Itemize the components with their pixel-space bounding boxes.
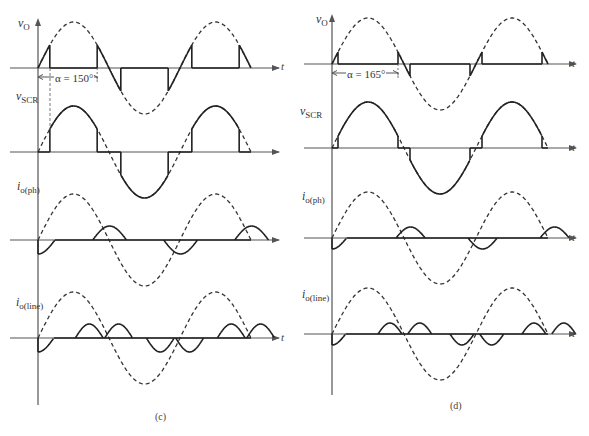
label-vSCR-d: vSCR <box>300 105 322 120</box>
t-label-d-3: t <box>572 231 575 243</box>
t-label-d-2: t <box>572 141 575 153</box>
axis-arrow-icon <box>329 14 335 22</box>
axis-arrow-icon <box>272 149 280 155</box>
t-label-d-4: t <box>572 327 575 339</box>
label-io-line-d: io(line) <box>302 288 329 303</box>
label-vO-c: vO <box>18 17 30 32</box>
t-label-c-4: t <box>281 331 284 343</box>
label-vO-d: vO <box>316 13 328 28</box>
phase-current-waveform <box>332 227 569 249</box>
line-current-waveform <box>332 323 576 345</box>
t-label-c-1: t <box>281 60 284 72</box>
waveform-figure <box>0 0 589 436</box>
phase-current-waveform <box>38 226 269 254</box>
caption-c: (c) <box>155 411 166 422</box>
label-io-ph-c: io(ph) <box>17 180 40 195</box>
line-current-waveform <box>38 324 274 352</box>
axis-arrow-icon <box>272 65 280 71</box>
label-io-ph-d: io(ph) <box>302 190 325 205</box>
axis-arrow-icon <box>272 237 280 243</box>
caption-d: (d) <box>450 400 462 411</box>
firing-angle-label-d: α = 165° <box>346 68 386 80</box>
firing-angle-label-c: α = 150° <box>54 72 94 84</box>
axis-arrow-icon <box>35 18 41 26</box>
output-voltage-waveform <box>38 45 251 91</box>
t-label-d-1: t <box>572 57 575 69</box>
label-vSCR-c: vSCR <box>16 90 38 105</box>
label-io-line-c: io(line) <box>16 296 43 311</box>
